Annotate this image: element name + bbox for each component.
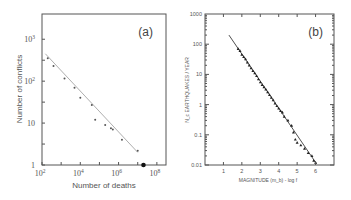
highlight-point-a	[141, 163, 146, 168]
data-point-b	[296, 141, 299, 144]
y-tick-label-a: 1	[31, 161, 35, 170]
data-point-a	[121, 139, 123, 141]
data-point-a	[137, 150, 139, 152]
x-axis-label-a: Number of deaths	[72, 181, 136, 190]
panel-label-b: (b)	[308, 25, 323, 39]
y-tick-label-a: 103	[24, 34, 35, 44]
data-point-b	[257, 77, 260, 80]
data-point-a	[104, 124, 106, 126]
data-point-a	[79, 97, 81, 99]
chart-panel-b: 123456 0.010.11101001000 (b) MAGNITUDE (…	[184, 11, 334, 183]
y-tick-label-b: 10	[196, 71, 202, 77]
data-point-b	[294, 138, 297, 141]
x-tick-label-b: 3	[259, 168, 262, 174]
y-tick-label-b: 0.1	[194, 132, 202, 138]
data-points-a	[47, 57, 146, 167]
figure: 102104106108 110102103 (a) Number of dea…	[0, 0, 351, 200]
x-tick-label-a: 104	[73, 168, 84, 178]
data-point-b	[299, 144, 302, 147]
x-tick-label-b: 5	[296, 168, 299, 174]
y-axis-label-b: N_c EARTHQUAKES / YEAR	[184, 57, 190, 123]
fit-line-a	[45, 54, 137, 153]
data-point-b	[275, 104, 278, 107]
chart-panel-a: 102104106108 110102103 (a) Number of dea…	[15, 14, 166, 190]
data-point-a	[94, 119, 96, 121]
x-tick-label-b: 1	[222, 168, 225, 174]
x-tick-label-a: 106	[111, 168, 122, 178]
y-tick-label-b: 0.01	[191, 162, 202, 168]
x-tick-label-b: 2	[240, 168, 243, 174]
data-point-b	[248, 64, 251, 67]
y-tick-label-b: 1000	[190, 11, 202, 17]
data-point-a	[74, 87, 76, 89]
data-point-a	[110, 127, 112, 129]
y-axis-label-a: Number of conflicts	[15, 55, 24, 123]
panel-label-a: (a)	[138, 25, 153, 39]
y-tick-label-b: 1	[199, 102, 202, 108]
fit-line-a-group	[45, 54, 137, 153]
data-point-b	[312, 159, 315, 162]
data-point-a	[53, 65, 55, 67]
data-point-b	[240, 53, 243, 56]
data-point-b	[274, 102, 277, 105]
data-point-a	[112, 129, 114, 131]
x-axis-label-b: MAGNITUDE (m_b) - log f	[239, 177, 298, 183]
y-tick-label-a: 102	[24, 76, 35, 86]
x-tick-label-b: 4	[277, 168, 280, 174]
data-point-b	[261, 83, 264, 86]
x-tick-label-a: 108	[149, 168, 160, 178]
data-point-a	[64, 78, 66, 80]
y-tick-label-b: 100	[193, 41, 202, 47]
x-tick-label-b: 6	[314, 168, 317, 174]
data-point-b	[251, 69, 254, 72]
y-tick-label-a: 10	[27, 119, 35, 128]
data-point-a	[91, 104, 93, 106]
data-point-a	[47, 57, 49, 59]
data-point-b	[250, 67, 253, 70]
x-tick-label-a: 102	[35, 168, 46, 178]
